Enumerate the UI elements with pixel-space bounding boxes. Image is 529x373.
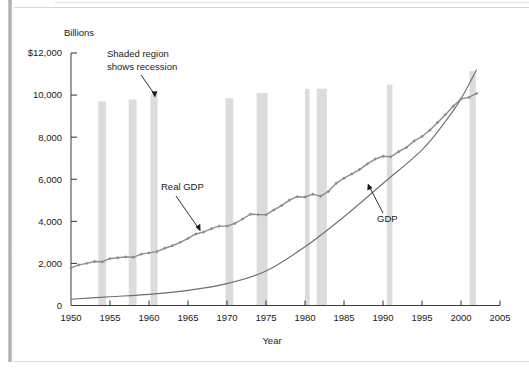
real-gdp-marker xyxy=(147,251,150,254)
real-gdp-marker xyxy=(311,192,314,195)
y-tick-label: 2,000 xyxy=(38,258,62,269)
chart-svg: 02,0004,0006,0008,00010,000$12,000 19501… xyxy=(0,0,529,373)
y-tick-group: 02,0004,0006,0008,00010,000$12,000 xyxy=(28,47,77,311)
real-gdp-marker xyxy=(218,224,221,227)
x-tick-label: 2005 xyxy=(489,312,510,323)
x-tick-label: 1995 xyxy=(411,312,432,323)
y-tick-label: 10,000 xyxy=(33,89,62,100)
x-axis-title: Year xyxy=(262,335,281,346)
recession-note-line1: Shaded region xyxy=(107,48,169,59)
recession-band xyxy=(225,98,233,305)
x-tick-label: 1990 xyxy=(372,312,393,323)
x-tick-group: 1950195519601965197019751980198519901995… xyxy=(60,301,510,323)
gdp-label: GDP xyxy=(377,213,398,224)
gdp-arrowhead xyxy=(367,183,372,190)
x-tick-label: 1965 xyxy=(177,312,198,323)
recession-note-line2: shows recession xyxy=(107,61,177,72)
y-tick-label: 4,000 xyxy=(38,216,62,227)
x-tick-label: 1950 xyxy=(60,312,81,323)
real-gdp-marker xyxy=(116,256,119,259)
real-gdp-marker xyxy=(85,262,88,265)
figure-page: 02,0004,0006,0008,00010,000$12,000 19501… xyxy=(0,0,529,373)
recession-band xyxy=(317,89,327,306)
real-gdp-marker xyxy=(124,255,127,258)
y-tick-label: 8,000 xyxy=(38,132,62,143)
x-tick-label: 1960 xyxy=(138,312,159,323)
recession-band-group xyxy=(98,71,476,306)
x-tick-label: 2000 xyxy=(450,312,471,323)
recession-band xyxy=(257,93,268,306)
y-axis-unit-label: Billions xyxy=(64,27,94,38)
recession-band xyxy=(98,101,106,305)
recession-band xyxy=(129,99,137,305)
gdp-chart-figure: 02,0004,0006,0008,00010,000$12,000 19501… xyxy=(0,0,529,373)
real-gdp-marker xyxy=(93,260,96,263)
recession-band xyxy=(470,71,476,306)
recession-band xyxy=(387,85,392,306)
y-tick-label: $12,000 xyxy=(28,47,62,58)
real-gdp-marker xyxy=(381,155,384,158)
recession-band xyxy=(151,94,158,305)
y-tick-label: 0 xyxy=(57,300,62,311)
y-tick-label: 6,000 xyxy=(38,174,62,185)
x-tick-label: 1980 xyxy=(294,312,315,323)
x-tick-label: 1955 xyxy=(99,312,120,323)
real-gdp-leader-line xyxy=(176,196,199,229)
real-gdp-label: Real GDP xyxy=(161,181,204,192)
x-tick-label: 1975 xyxy=(255,312,276,323)
x-tick-label: 1970 xyxy=(216,312,237,323)
x-tick-label: 1985 xyxy=(333,312,354,323)
